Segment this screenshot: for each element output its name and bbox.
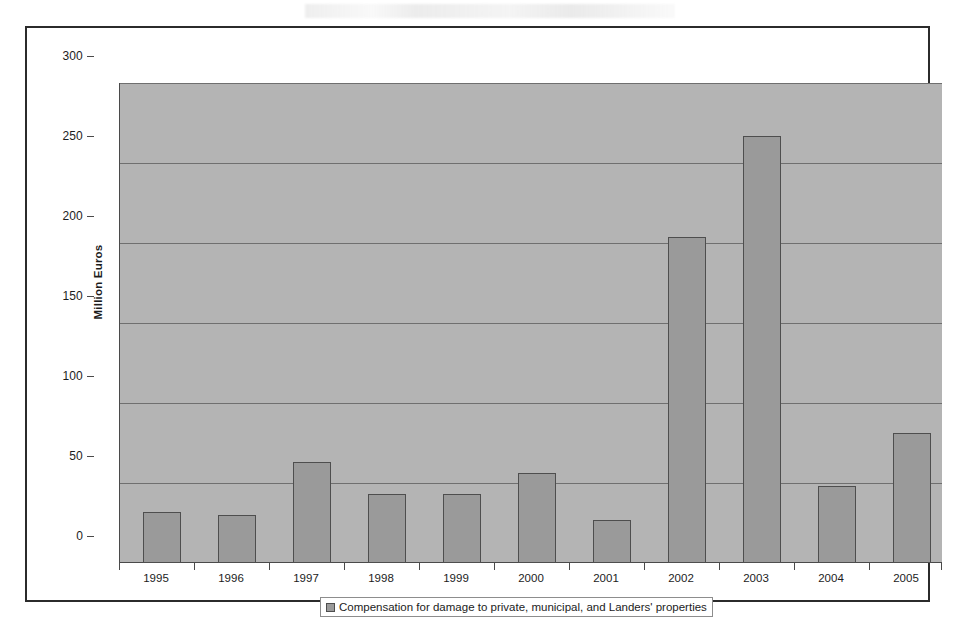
- chart-figure-frame: Million Euros 300 250 200 150 100 50 0: [25, 26, 930, 602]
- x-tick-label-2003: 2003: [721, 572, 791, 584]
- y-tick-mark-150: [87, 296, 94, 297]
- y-tick-mark-300: [87, 56, 94, 57]
- gridline-300: [120, 83, 942, 84]
- gridline-100: [120, 403, 942, 404]
- y-tick-mark-50: [87, 456, 94, 457]
- bar-1998[interactable]: [368, 494, 406, 563]
- y-axis-title: Million Euros: [92, 202, 104, 362]
- plot-area: [119, 83, 942, 563]
- gridline-250: [120, 163, 942, 164]
- x-tick-label-2001: 2001: [571, 572, 641, 584]
- bar-1997[interactable]: [293, 462, 331, 563]
- x-tick-mark-11: [941, 563, 942, 570]
- bar-2001[interactable]: [593, 520, 631, 563]
- x-tick-mark-10: [869, 563, 870, 570]
- y-tick-label-0: 0: [25, 529, 83, 543]
- x-tick-label-1995: 1995: [121, 572, 191, 584]
- y-tick-mark-200: [87, 216, 94, 217]
- bar-2003[interactable]: [743, 136, 781, 563]
- y-tick-label-50: 50: [25, 449, 83, 463]
- x-tick-mark-6: [569, 563, 570, 570]
- bar-1995[interactable]: [143, 512, 181, 563]
- legend-color-swatch-icon: [326, 603, 335, 612]
- x-tick-label-1999: 1999: [421, 572, 491, 584]
- y-tick-label-200: 200: [25, 209, 83, 223]
- y-tick-mark-250: [87, 136, 94, 137]
- chart-legend: Compensation for damage to private, muni…: [320, 597, 713, 617]
- x-tick-label-1997: 1997: [271, 572, 341, 584]
- x-tick-label-2000: 2000: [496, 572, 566, 584]
- y-tick-mark-100: [87, 376, 94, 377]
- bar-1996[interactable]: [218, 515, 256, 563]
- bar-2004[interactable]: [818, 486, 856, 563]
- bar-2000[interactable]: [518, 473, 556, 563]
- x-tick-label-1998: 1998: [346, 572, 416, 584]
- x-tick-mark-3: [344, 563, 345, 570]
- bar-2002[interactable]: [668, 237, 706, 563]
- legend-entry-label: Compensation for damage to private, muni…: [339, 601, 707, 613]
- x-tick-mark-0: [119, 563, 120, 570]
- x-tick-mark-2: [269, 563, 270, 570]
- x-tick-mark-5: [494, 563, 495, 570]
- gridline-150: [120, 323, 942, 324]
- x-tick-label-2005: 2005: [871, 572, 941, 584]
- x-tick-mark-7: [644, 563, 645, 570]
- bar-2005[interactable]: [893, 433, 931, 563]
- y-tick-label-100: 100: [25, 369, 83, 383]
- x-tick-mark-9: [794, 563, 795, 570]
- y-tick-label-250: 250: [25, 129, 83, 143]
- x-tick-label-1996: 1996: [196, 572, 266, 584]
- x-tick-mark-8: [719, 563, 720, 570]
- y-tick-mark-0: [87, 536, 94, 537]
- x-tick-label-2002: 2002: [646, 572, 716, 584]
- scan-bleedthrough-artifact: [305, 4, 675, 18]
- x-tick-label-2004: 2004: [796, 572, 866, 584]
- x-tick-mark-1: [194, 563, 195, 570]
- bar-1999[interactable]: [443, 494, 481, 563]
- y-tick-label-300: 300: [25, 49, 83, 63]
- gridline-200: [120, 243, 942, 244]
- y-tick-label-150: 150: [25, 289, 83, 303]
- x-tick-mark-4: [419, 563, 420, 570]
